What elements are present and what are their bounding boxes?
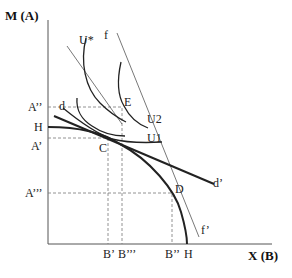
label-u-star: U* [79,33,94,47]
label-d: d [59,99,65,113]
economics-diagram: M (A) X (B) A’’ H A’ A’’’ B’ B’’’ B’’ H … [0,0,292,278]
label-u2: U2 [147,112,162,126]
indifference-curve-u-star [84,38,126,122]
label-a-double-prime: A’’ [28,100,42,114]
label-f: f [104,28,108,42]
label-b-triple-prime: B’’’ [118,247,136,261]
production-possibility-curve [48,127,187,244]
label-point-d: D [175,182,184,196]
label-u1: U1 [147,131,162,145]
label-f-prime: f’ [201,223,210,237]
trade-line-d-dprime [54,116,214,184]
label-h-y: H [34,120,43,134]
label-a-triple-prime: A’’’ [25,186,43,200]
label-point-e: E [124,95,131,109]
indifference-curve-u2 [119,62,148,128]
y-axis-title: M (A) [5,8,39,23]
label-d-prime: d’ [213,176,223,190]
label-point-c: C [99,141,107,155]
label-h-x: H [184,247,193,261]
guide-a-triple-prime-to-d [48,193,172,244]
price-line-d [67,46,122,124]
label-b-prime: B’ [103,247,115,261]
label-a-prime: A’ [31,139,42,153]
label-b-double-prime: B’’ [165,247,180,261]
x-axis-title: X (B) [248,248,278,263]
